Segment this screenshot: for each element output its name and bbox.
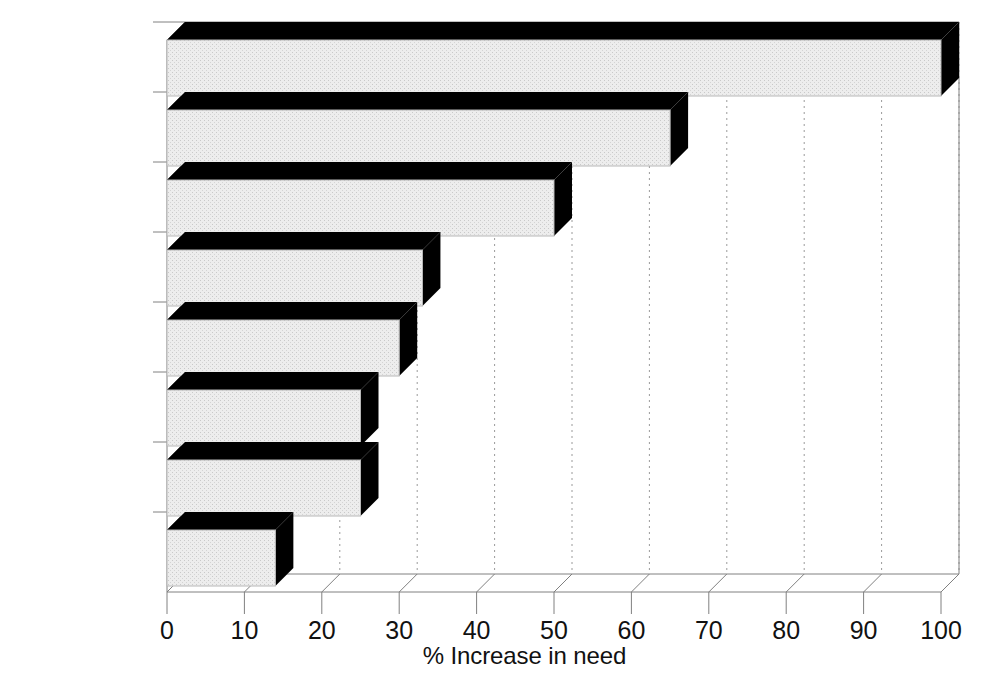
x-tick-label-20: 20 xyxy=(308,618,336,643)
x-tick-label-90: 90 xyxy=(850,618,878,643)
x-tick-label-70: 70 xyxy=(695,618,723,643)
x-axis-title: % Increase in need xyxy=(0,642,985,670)
x-tick-label-0: 0 xyxy=(160,618,174,643)
x-tick-label-40: 40 xyxy=(463,618,491,643)
bar-chart: FolacinProteinCalciumVitamin CThiaminVit… xyxy=(0,0,985,691)
x-tick-label-50: 50 xyxy=(540,618,568,643)
value-axis-tick-labels: 0102030405060708090100 xyxy=(0,0,985,691)
x-tick-label-60: 60 xyxy=(617,618,645,643)
x-tick-label-30: 30 xyxy=(385,618,413,643)
x-axis-title-text: % Increase in need xyxy=(423,642,627,670)
x-tick-label-80: 80 xyxy=(772,618,800,643)
x-tick-label-10: 10 xyxy=(230,618,258,643)
x-tick-label-100: 100 xyxy=(920,618,962,643)
